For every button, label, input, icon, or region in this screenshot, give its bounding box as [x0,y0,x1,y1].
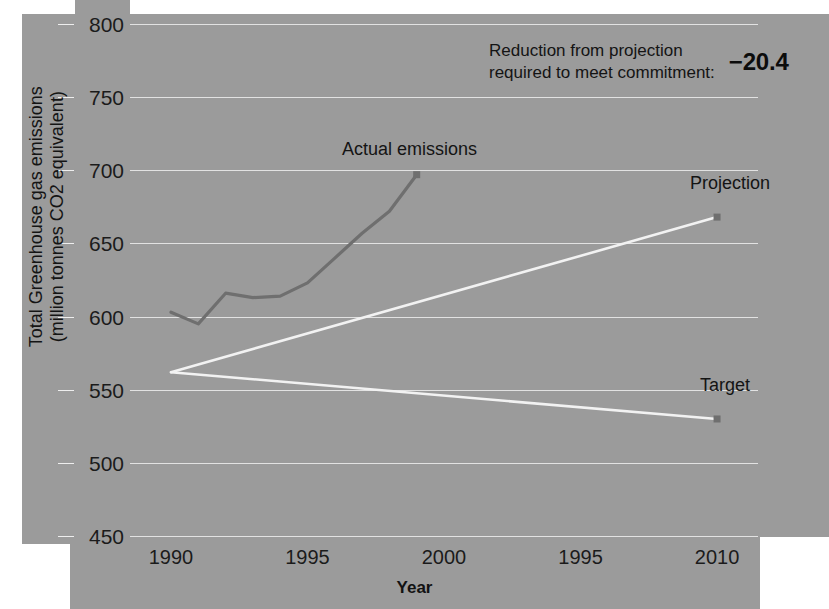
series-line-actual-emissions [171,175,417,324]
series-lines [0,0,829,609]
reduction-annotation: Reduction from projection required to me… [489,40,789,85]
series-label-actual-emissions: Actual emissions [342,139,477,160]
end-marker-target [714,415,721,422]
series-line-target [171,372,717,419]
reduction-annotation-line2: required to meet commitment: [489,62,715,84]
series-label-projection: Projection [690,173,770,194]
series-line-projection [171,217,717,372]
reduction-annotation-text: Reduction from projection required to me… [489,40,715,85]
end-marker-projection [714,214,721,221]
reduction-annotation-line1: Reduction from projection [489,40,715,62]
end-marker-actual-emissions [413,171,420,178]
reduction-annotation-value: −20.4 [729,48,789,76]
series-label-target: Target [700,375,750,396]
chart-figure: 800750700650600550500450 199019952000199… [0,0,829,609]
